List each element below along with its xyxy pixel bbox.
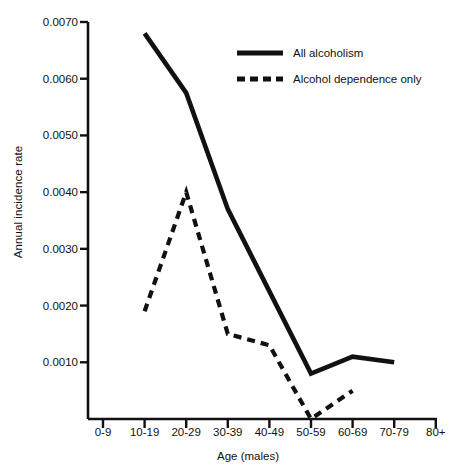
x-tick-label: 50-59: [296, 426, 325, 438]
series-line-alcohol-dependence-only: [145, 192, 353, 419]
y-tick-label: 0.0020: [8, 300, 78, 312]
y-tick-label: 0.0070: [8, 16, 78, 28]
x-tick-label: 60-69: [338, 426, 367, 438]
x-tick-label: 10-19: [130, 426, 159, 438]
x-tick-label: 70-79: [379, 426, 408, 438]
y-axis-title: Annual incidence rate: [12, 122, 24, 282]
chart-legend: All alcoholism Alcohol dependence only: [236, 40, 422, 92]
legend-label-all-alcoholism: All alcoholism: [293, 47, 363, 59]
y-tick-label: 0.0060: [8, 73, 78, 85]
x-tick-label: 20-29: [171, 426, 200, 438]
x-tick-label: 80+: [426, 426, 446, 438]
x-tick-label: 40-49: [255, 426, 284, 438]
legend-swatch-solid-icon: [236, 46, 284, 60]
x-axis-title-text: Age (males): [217, 450, 279, 462]
x-tick-label: 30-39: [213, 426, 242, 438]
x-axis-title: Age (males): [0, 450, 468, 462]
legend-item-all-alcoholism: All alcoholism: [236, 40, 422, 66]
x-tick-label: 0-9: [95, 426, 112, 438]
legend-item-alcohol-dependence-only: Alcohol dependence only: [236, 66, 422, 92]
legend-label-alcohol-dependence-only: Alcohol dependence only: [293, 73, 422, 85]
incidence-rate-chart: 0.00100.00200.00300.00400.00500.00600.00…: [0, 0, 468, 475]
legend-swatch-dashed-icon: [236, 72, 284, 86]
y-tick-label: 0.0010: [8, 356, 78, 368]
